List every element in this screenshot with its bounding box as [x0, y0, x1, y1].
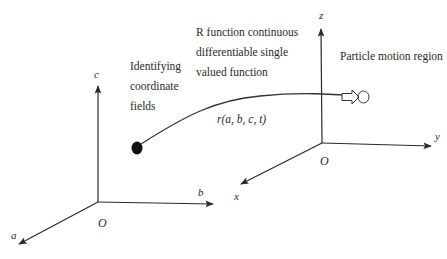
x-axis-label: x [233, 190, 239, 202]
y-axis [322, 143, 431, 146]
z-axis [321, 29, 322, 143]
diagram-canvas: c b a O z y x O Identifying coordinate f… [0, 0, 447, 259]
annotation-identifying-fields: Identifying coordinate fields [130, 60, 181, 112]
r-function-line-3: valued function [196, 66, 268, 78]
c-axis-label: c [94, 68, 99, 80]
a-axis [19, 202, 98, 244]
mapping-function-label: r(a, b, c, t) [217, 113, 266, 126]
hollow-arrow-icon [342, 90, 359, 104]
right-origin-label: O [320, 154, 329, 168]
r-function-line-2: differentiable single [196, 46, 288, 59]
identifying-line-3: fields [130, 100, 156, 112]
annotation-r-function: R function continuous differentiable sin… [196, 26, 299, 78]
x-axis [241, 143, 322, 184]
particle-motion-region-label: Particle motion region [340, 50, 443, 63]
identifying-line-1: Identifying [130, 60, 181, 73]
b-axis [98, 202, 213, 204]
b-axis-label: b [198, 186, 204, 198]
identifying-line-2: coordinate [130, 80, 179, 92]
left-coordinate-frame: c b a O [11, 68, 213, 244]
r-function-line-1: R function continuous [196, 26, 299, 38]
a-axis-label: a [11, 229, 17, 241]
z-axis-label: z [318, 9, 324, 21]
left-origin-label: O [98, 216, 107, 230]
y-axis-label: y [434, 130, 440, 142]
